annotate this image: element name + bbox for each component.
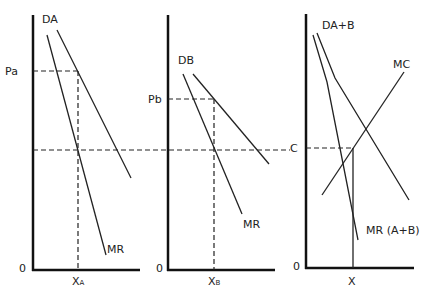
mr-label-a: MR xyxy=(107,244,124,255)
origin-label-combined: 0 xyxy=(293,261,300,272)
demand-label-b: DB xyxy=(178,55,194,66)
quantity-label-combined: X xyxy=(348,276,356,287)
mr-label-combined: MR (A+B) xyxy=(366,225,420,236)
price-label-b: Pb xyxy=(148,94,162,105)
mr-curve-b xyxy=(183,74,242,214)
price-label-a: Pa xyxy=(5,66,18,77)
origin-label-a: 0 xyxy=(19,263,26,274)
mc-curve xyxy=(322,72,404,195)
price-discrimination-diagram xyxy=(0,0,428,296)
mc-label: MC xyxy=(393,59,410,70)
demand-label-a: DA xyxy=(42,14,58,25)
panel-market-a xyxy=(32,15,140,271)
demand-label-combined: DA+B xyxy=(322,20,355,31)
cost-label: C xyxy=(290,143,298,154)
origin-label-b: 0 xyxy=(156,263,163,274)
quantity-label-a: XA xyxy=(72,276,84,287)
mr-curve-combined xyxy=(313,35,358,240)
mr-label-b: MR xyxy=(243,219,260,230)
quantity-label-b: XB xyxy=(208,276,220,287)
demand-curve-a xyxy=(57,30,131,178)
